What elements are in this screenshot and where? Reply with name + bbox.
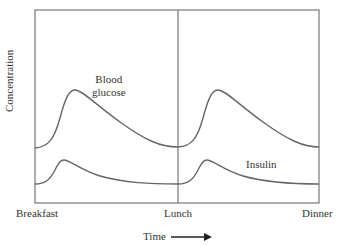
glucose-label-line2: glucose [92,86,126,99]
tick-dinner: Dinner [302,207,333,219]
plot-frame [35,10,319,203]
glucose-label-line1: Blood [92,73,126,86]
x-axis-label: Time [143,230,166,242]
tick-breakfast: Breakfast [16,207,58,219]
arrow-head-icon [204,233,212,241]
y-axis-label: Concentration [3,50,15,112]
glucose-annotation: Blood glucose [92,73,126,99]
insulin-annotation: Insulin [246,158,277,171]
tick-lunch: Lunch [164,207,192,219]
blood-glucose-curve [35,90,319,148]
